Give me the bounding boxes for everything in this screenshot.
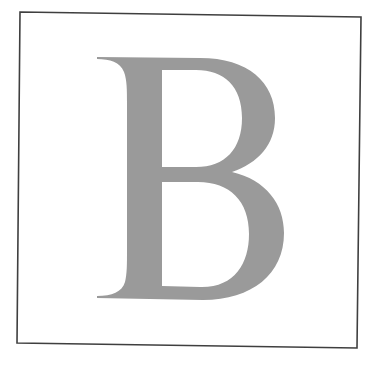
letter-figure	[0, 0, 385, 371]
letter-card: B	[0, 0, 385, 371]
